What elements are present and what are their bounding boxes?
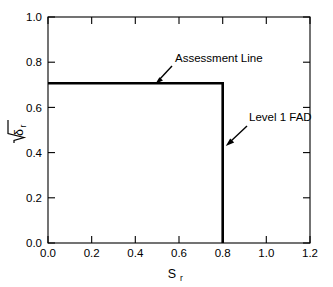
- y-tick-label-3: 0.6: [26, 102, 42, 114]
- x-tick-label-2: 0.4: [127, 247, 144, 259]
- x-tick-label-4: 0.8: [215, 247, 231, 259]
- x-tick-label-6: 1.2: [302, 247, 318, 259]
- x-tick-label-0: 0.0: [40, 247, 56, 259]
- y-tick-label-0: 0.0: [26, 237, 42, 249]
- fad-assessment-diagram: 0.0 0.2 0.4 0.6 0.8 1.0 1.2 0.0 0.2 0.4 …: [0, 0, 333, 287]
- y-tick-label-4: 0.8: [26, 56, 42, 68]
- y-tick-label-2: 0.4: [26, 147, 43, 159]
- plot-background: [48, 17, 310, 243]
- x-axis-title-main: S: [168, 267, 176, 281]
- x-tick-label-5: 1.0: [258, 247, 274, 259]
- y-axis-title-sub: r: [18, 125, 28, 128]
- x-axis-title-sub: r: [180, 273, 183, 283]
- chart-figure: 0.0 0.2 0.4 0.6 0.8 1.0 1.2 0.0 0.2 0.4 …: [0, 0, 333, 287]
- level-1-fad-label: Level 1 FAD: [249, 111, 312, 123]
- assessment-line-label: Assessment Line: [175, 52, 263, 64]
- y-tick-label-5: 1.0: [26, 11, 42, 23]
- x-axis-title: S r: [168, 267, 183, 283]
- x-tick-label-3: 0.6: [171, 247, 187, 259]
- y-axis-title-main: δ: [12, 129, 26, 136]
- y-tick-label-1: 0.2: [26, 192, 42, 204]
- y-axis-title: δ r: [8, 120, 28, 143]
- x-tick-label-1: 0.2: [84, 247, 100, 259]
